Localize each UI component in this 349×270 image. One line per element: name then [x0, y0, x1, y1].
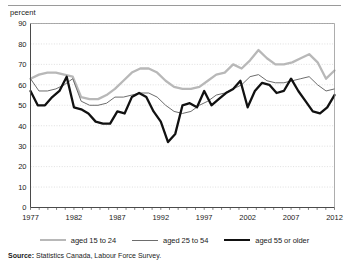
legend-line-swatch: [132, 240, 158, 241]
source-label: Source:: [8, 252, 34, 259]
legend-line-swatch: [40, 239, 66, 241]
svg-text:2002: 2002: [239, 213, 256, 222]
svg-text:1977: 1977: [22, 213, 39, 222]
chart-figure: percent 0102030405060708090 197719821987…: [0, 0, 349, 270]
svg-text:2012: 2012: [326, 213, 343, 222]
y-axis-tick-labels: 0102030405060708090: [18, 19, 26, 212]
svg-text:80: 80: [18, 40, 26, 49]
legend-item-label: aged 55 or older: [255, 236, 309, 245]
series-line: [31, 50, 335, 99]
legend-line-swatch: [224, 239, 250, 241]
svg-text:90: 90: [18, 19, 26, 28]
svg-text:40: 40: [18, 122, 26, 131]
svg-text:10: 10: [18, 183, 26, 192]
svg-text:1992: 1992: [152, 213, 169, 222]
svg-text:1987: 1987: [109, 213, 126, 222]
svg-text:60: 60: [18, 81, 26, 90]
svg-text:2007: 2007: [283, 213, 300, 222]
legend-item-label: aged 25 to 54: [163, 236, 208, 245]
svg-text:20: 20: [18, 162, 26, 171]
data-series-lines: [31, 50, 335, 142]
svg-text:1997: 1997: [196, 213, 213, 222]
svg-text:1982: 1982: [66, 213, 83, 222]
svg-text:50: 50: [18, 101, 26, 110]
chart-legend: aged 15 to 24aged 25 to 54aged 55 or old…: [0, 232, 349, 248]
svg-text:70: 70: [18, 60, 26, 69]
legend-item-label: aged 15 to 24: [71, 236, 116, 245]
source-value: Statistics Canada, Labour Force Survey.: [34, 252, 161, 259]
plot-axes: [31, 24, 335, 208]
svg-text:30: 30: [18, 142, 26, 151]
legend-item[interactable]: aged 55 or older: [224, 236, 309, 245]
legend-item[interactable]: aged 15 to 24: [40, 236, 116, 245]
svg-text:0: 0: [22, 203, 26, 212]
x-axis-tick-labels: 19771982198719921997200220072012: [22, 213, 343, 222]
line-chart-plot: 0102030405060708090 19771982198719921997…: [0, 0, 349, 232]
source-note: Source: Statistics Canada, Labour Force …: [8, 252, 161, 259]
legend-item[interactable]: aged 25 to 54: [132, 236, 208, 245]
